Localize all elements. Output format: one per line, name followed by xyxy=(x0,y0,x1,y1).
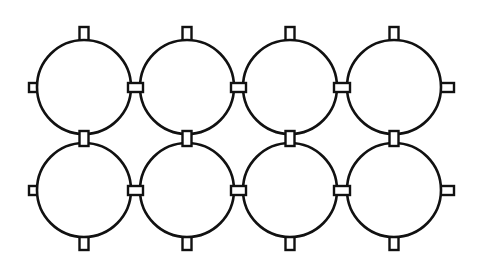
circle-r1-c2 xyxy=(140,40,234,134)
vertical-connector-3 xyxy=(286,131,295,146)
circles-layer xyxy=(37,40,441,237)
horizontal-connector-r2-3 xyxy=(334,186,350,195)
circle-r2-c1 xyxy=(37,143,131,237)
circle-r1-c4 xyxy=(347,40,441,134)
vertical-connector-1 xyxy=(80,131,89,146)
circle-r1-c3 xyxy=(243,40,337,134)
circle-r2-c3 xyxy=(243,143,337,237)
circle-r2-c2 xyxy=(140,143,234,237)
horizontal-connector-r2-2 xyxy=(231,186,246,195)
vertical-connector-2 xyxy=(183,131,192,146)
horizontal-connector-r1-2 xyxy=(231,83,246,92)
horizontal-connector-r2-1 xyxy=(128,186,143,195)
circle-r1-c1 xyxy=(37,40,131,134)
circle-r2-c4 xyxy=(347,143,441,237)
horizontal-connector-r1-1 xyxy=(128,83,143,92)
vertical-connector-4 xyxy=(390,131,399,146)
circle-grid-diagram xyxy=(0,0,480,263)
horizontal-connector-r1-3 xyxy=(334,83,350,92)
